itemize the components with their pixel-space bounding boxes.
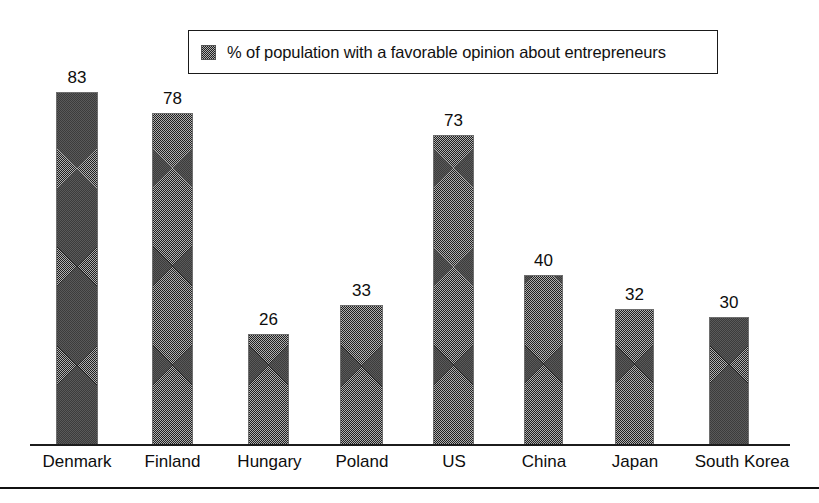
category-label: Hungary: [212, 452, 327, 472]
bar-group: 32: [615, 309, 654, 445]
bar-value-label: 73: [444, 111, 463, 131]
bar[interactable]: [615, 309, 654, 445]
bar-value-label: 78: [163, 89, 182, 109]
bar-group: 78: [152, 113, 193, 445]
category-label: Japan: [585, 452, 685, 472]
bar[interactable]: [433, 135, 474, 445]
category-label: South Korea: [672, 452, 812, 472]
chart-page: % of population with a favorable opinion…: [0, 0, 819, 503]
bar[interactable]: [524, 275, 563, 445]
bar[interactable]: [709, 317, 749, 445]
bar[interactable]: [152, 113, 193, 445]
category-label: US: [408, 452, 500, 472]
bar-group: 33: [340, 305, 383, 445]
bar[interactable]: [340, 305, 383, 445]
bar-value-label: 33: [352, 281, 371, 301]
plot-area: 83Denmark78Finland26Hungary33Poland73US4…: [0, 0, 819, 503]
bar-value-label: 30: [720, 293, 739, 313]
bar-value-label: 83: [68, 68, 87, 88]
bar-group: 40: [524, 275, 563, 445]
bar-value-label: 32: [625, 285, 644, 305]
bar-group: 30: [709, 317, 749, 445]
bar-group: 73: [433, 135, 474, 445]
bar-group: 26: [248, 334, 289, 445]
bar-value-label: 40: [534, 251, 553, 271]
bar[interactable]: [56, 92, 98, 445]
category-label: China: [492, 452, 596, 472]
bar-group: 83: [56, 92, 98, 445]
bar[interactable]: [248, 334, 289, 445]
x-axis-line: [30, 444, 790, 446]
category-label: Poland: [312, 452, 412, 472]
bar-value-label: 26: [259, 310, 278, 330]
bottom-rule-divider: [0, 487, 819, 489]
category-label: Finland: [120, 452, 225, 472]
category-label: Denmark: [22, 452, 132, 472]
